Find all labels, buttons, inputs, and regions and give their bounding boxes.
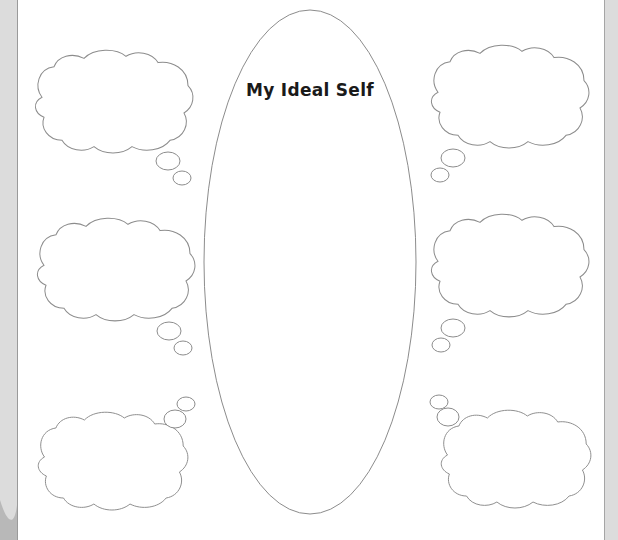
worksheet-title: My Ideal Self: [230, 80, 390, 100]
page-curl: [0, 500, 17, 540]
thought-bubble-bottom-right[interactable]: [430, 395, 591, 508]
worksheet-page: My Ideal Self: [0, 0, 618, 540]
thought-bubble-top-right[interactable]: [431, 45, 589, 182]
thought-bubble-middle-right[interactable]: [431, 214, 589, 352]
thought-bubble-bottom-left[interactable]: [38, 397, 195, 510]
thought-bubble-top-left[interactable]: [35, 50, 193, 185]
thought-bubble-middle-left[interactable]: [37, 218, 195, 355]
